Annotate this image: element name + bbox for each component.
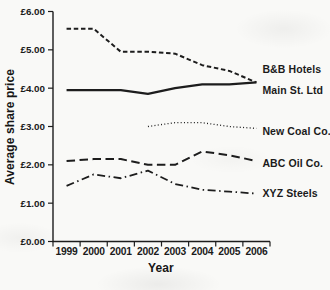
- x-tick-label: 2004: [191, 246, 214, 257]
- x-tick-label: 2002: [137, 246, 160, 257]
- y-tick-label: £1.00: [20, 198, 45, 209]
- series-line-xyz-steels: [67, 171, 257, 194]
- y-tick-label: £3.00: [20, 121, 45, 132]
- x-tick-label: 2005: [218, 246, 241, 257]
- series-label-new-coal-co: New Coal Co.: [262, 125, 330, 137]
- series-line-new-coal-co: [148, 123, 257, 129]
- chart-plot: £6.00£5.00£4.00£3.00£2.00£1.00£0.0019992…: [0, 0, 330, 290]
- y-tick-label: £4.00: [20, 83, 45, 94]
- x-tick-label: 2006: [245, 246, 268, 257]
- y-axis-title: Average share price: [3, 69, 17, 185]
- x-tick-label: 2003: [164, 246, 187, 257]
- y-tick-label: £0.00: [20, 236, 45, 247]
- y-tick-label: £5.00: [20, 44, 45, 55]
- x-tick-label: 2000: [83, 246, 106, 257]
- x-tick-label: 1999: [56, 246, 79, 257]
- series-line-main-st-ltd: [67, 82, 257, 94]
- series-label-abc-oil-co: ABC Oil Co.: [262, 157, 323, 169]
- x-tick-label: 2001: [110, 246, 133, 257]
- series-label-main-st-ltd: Main St. Ltd: [262, 84, 323, 96]
- series-label-xyz-steels: XYZ Steels: [262, 187, 317, 199]
- share-price-line-chart: £6.00£5.00£4.00£3.00£2.00£1.00£0.0019992…: [0, 0, 330, 290]
- y-tick-label: £2.00: [20, 159, 45, 170]
- series-label-b-b-hotels: B&B Hotels: [262, 63, 321, 75]
- y-tick-label: £6.00: [20, 6, 45, 17]
- series-line-b-b-hotels: [67, 29, 257, 83]
- x-axis-title: Year: [148, 261, 174, 275]
- series-line-abc-oil-co: [67, 151, 257, 164]
